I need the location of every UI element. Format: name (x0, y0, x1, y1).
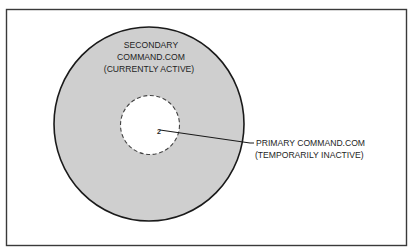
svg-text:SECONDARY: SECONDARY (124, 40, 179, 50)
center-marker: 2 (157, 128, 161, 135)
diagram-canvas: SECONDARY COMMAND.COM (CURRENTLY ACTIVE)… (0, 0, 412, 252)
svg-text:PRIMARY COMMAND.COM: PRIMARY COMMAND.COM (256, 138, 365, 148)
primary-command-com-circle (121, 96, 180, 155)
svg-text:(TEMPORARILY INACTIVE): (TEMPORARILY INACTIVE) (255, 150, 364, 160)
svg-text:(CURRENTLY ACTIVE): (CURRENTLY ACTIVE) (104, 64, 195, 74)
svg-text:COMMAND.COM: COMMAND.COM (117, 52, 185, 62)
